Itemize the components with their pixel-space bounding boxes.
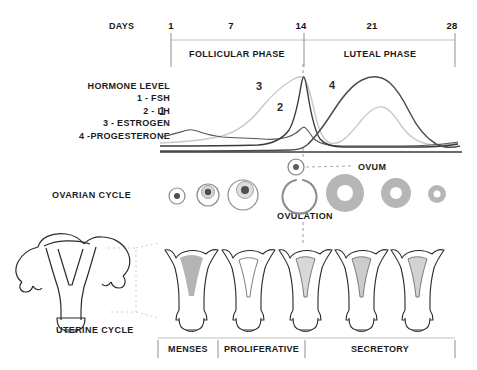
stage-label-menses: MENSES	[158, 344, 218, 354]
uterus-mid-secretory	[335, 250, 388, 332]
uterus-large-illustration	[16, 234, 130, 333]
stage-label-proliferative: PROLIFERATIVE	[218, 344, 305, 354]
uterus-detail-leader	[108, 243, 158, 318]
menstrual-cycle-diagram: DAYS 1 7 14 21 28 FOLLICULAR PHASE LUTEA…	[0, 0, 477, 370]
uterus-late-secretory	[391, 250, 444, 332]
uterine-cycle-row	[0, 0, 477, 370]
uterus-early-secretory	[279, 250, 332, 332]
uterus-menses	[165, 250, 218, 332]
uterus-proliferative	[222, 250, 275, 332]
stage-label-secretory: SECRETORY	[305, 344, 455, 354]
